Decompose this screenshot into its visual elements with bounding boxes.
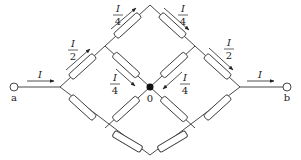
svg-text:I: I [112, 72, 118, 83]
input-current-label: I [37, 69, 43, 80]
resistors [68, 12, 231, 153]
resistor-bottom-lower-right [157, 130, 188, 152]
svg-text:4: 4 [112, 85, 118, 96]
svg-text:I: I [70, 38, 76, 49]
center-node-label: 0 [147, 93, 153, 104]
svg-text:4: 4 [180, 16, 186, 27]
lead-wires [18, 5, 283, 155]
resistor-ll-center [112, 96, 140, 123]
svg-text:4: 4 [115, 16, 121, 27]
svg-text:2: 2 [70, 51, 76, 62]
frac-center-left-quarter: I 4 [110, 72, 120, 96]
frac-upper-left-half: I 2 [68, 38, 78, 62]
svg-text:2: 2 [226, 50, 232, 61]
terminal-b [283, 83, 291, 91]
terminal-b-label: b [284, 92, 290, 103]
svg-text:I: I [226, 37, 232, 48]
current-arrows [27, 8, 274, 89]
frac-upper-left-quarter: I 4 [113, 3, 123, 27]
terminal-a [10, 83, 18, 91]
terminal-a-label: a [11, 92, 17, 103]
resistor-lower-left-bottom [112, 130, 143, 152]
resistor-left-lower [68, 94, 96, 121]
svg-text:4: 4 [182, 85, 188, 96]
resistor-network-diagram: a b 0 I I I 2 I 4 I 4 I 2 I [0, 0, 301, 160]
svg-text:I: I [180, 3, 186, 14]
resistor-lower-right-right [203, 94, 231, 121]
frac-upper-right-half: I 2 [224, 37, 234, 61]
frac-upper-right-quarter: I 4 [178, 3, 188, 27]
frac-center-right-quarter: I 4 [180, 72, 190, 96]
svg-text:I: I [115, 3, 121, 14]
resistor-lr-center [160, 96, 188, 123]
svg-text:I: I [182, 72, 188, 83]
center-node [147, 84, 154, 91]
output-current-label: I [257, 69, 263, 80]
